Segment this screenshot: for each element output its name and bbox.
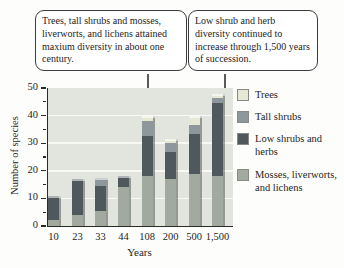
bar-3d-top-face <box>72 179 85 181</box>
x-tick-label-1500: 1,500 <box>206 231 230 242</box>
bar-segment <box>142 121 153 136</box>
succession-diversity-figure: Trees, tall shrubs and mosses, liverwort… <box>0 0 344 268</box>
bar-segment <box>48 196 59 221</box>
legend-label: Tall shrubs <box>255 110 301 123</box>
plot-area <box>47 88 233 227</box>
bar-segment <box>118 187 129 226</box>
bar-3d-side-face <box>153 176 155 226</box>
y-tick-label-50: 50 <box>20 81 38 92</box>
bar-3d-side-face <box>83 215 85 226</box>
legend-swatch-icon <box>237 169 249 181</box>
x-tick-label-23: 23 <box>72 231 83 242</box>
y-minor-tick-25 <box>43 156 46 157</box>
bar-3d-side-face <box>200 125 202 133</box>
bar-3d-side-face <box>176 152 178 180</box>
x-axis-title: Years <box>47 246 232 258</box>
y-tick-label-20: 20 <box>20 164 38 175</box>
y-tick-label-10: 10 <box>20 191 38 202</box>
y-major-tick-30 <box>41 143 46 144</box>
y-major-tick-10 <box>41 198 46 199</box>
x-tick-label-500: 500 <box>186 231 202 242</box>
legend-item: Tall shrubs <box>237 110 343 123</box>
bar-segment <box>189 116 200 126</box>
x-tick-label-200: 200 <box>163 231 179 242</box>
y-minor-tick-35 <box>43 129 46 130</box>
y-minor-tick-45 <box>43 101 46 102</box>
bar-3d-side-face <box>153 136 155 176</box>
y-tick-label-0: 0 <box>20 219 38 230</box>
bar-segment <box>95 178 106 186</box>
bar-10 <box>48 196 61 226</box>
bar-segment <box>72 179 83 215</box>
bar-3d-side-face <box>59 196 61 221</box>
legend-swatch-icon <box>237 111 249 123</box>
y-major-tick-20 <box>41 170 46 171</box>
bar-33 <box>95 178 108 226</box>
x-tick-label-108: 108 <box>139 231 155 242</box>
legend-label: Low shrubs and herbs <box>255 132 343 158</box>
bar-segment <box>165 179 176 226</box>
legend-label: Trees <box>255 88 278 101</box>
x-tick-label-33: 33 <box>95 231 106 242</box>
bar-3d-side-face <box>153 121 155 136</box>
legend-swatch-icon <box>237 133 249 145</box>
bar-segment <box>212 103 223 176</box>
bar-segment <box>72 215 83 226</box>
gridline-40 <box>48 115 233 117</box>
bar-segment <box>118 176 129 187</box>
bar-3d-top-face <box>165 139 178 141</box>
gridline-30 <box>48 142 233 144</box>
legend: TreesTall shrubsLow shrubs and herbsMoss… <box>237 88 343 194</box>
bar-1500 <box>212 94 225 226</box>
y-tick-label-40: 40 <box>20 109 38 120</box>
legend-swatch-icon <box>237 89 249 101</box>
bar-segment <box>95 211 106 226</box>
y-major-tick-0 <box>41 225 46 226</box>
bar-3d-side-face <box>223 103 225 176</box>
callout-right: Low shrub and herb diversity continued t… <box>188 10 318 71</box>
bar-3d-top-face <box>212 94 225 96</box>
legend-item: Low shrubs and herbs <box>237 132 343 158</box>
y-major-tick-40 <box>41 115 46 116</box>
bar-3d-side-face <box>176 143 178 151</box>
bar-segment <box>142 176 153 226</box>
bar-3d-side-face <box>59 220 61 226</box>
bar-segment <box>189 134 200 174</box>
bar-3d-side-face <box>200 174 202 226</box>
gridline-20 <box>48 170 233 172</box>
bar-segment <box>95 186 106 211</box>
legend-label: Mosses, liverworts, and lichens <box>255 168 343 194</box>
bar-500 <box>189 116 202 226</box>
callout-right-text: Low shrub and herb diversity continued t… <box>195 15 310 64</box>
legend-item: Mosses, liverworts, and lichens <box>237 168 343 194</box>
bar-3d-side-face <box>200 134 202 174</box>
callout-left-text: Trees, tall shrubs and mosses, liverwort… <box>42 15 167 64</box>
bar-segment <box>189 174 200 226</box>
y-minor-tick-5 <box>43 212 46 213</box>
bar-3d-top-face <box>95 178 108 180</box>
bar-108 <box>142 116 155 226</box>
bar-3d-side-face <box>106 186 108 211</box>
bar-3d-side-face <box>129 187 131 226</box>
bar-segment <box>142 136 153 176</box>
bar-3d-top-face <box>118 176 131 178</box>
bar-23 <box>72 179 85 226</box>
bar-200 <box>165 139 178 226</box>
bar-3d-side-face <box>106 211 108 226</box>
y-tick-label-30: 30 <box>20 136 38 147</box>
x-tick-label-10: 10 <box>48 231 59 242</box>
bar-3d-top-face <box>48 196 61 198</box>
y-major-tick-50 <box>41 87 46 88</box>
bar-segment <box>48 220 59 226</box>
bar-3d-side-face <box>223 176 225 226</box>
y-minor-tick-15 <box>43 184 46 185</box>
callout-left: Trees, tall shrubs and mosses, liverwort… <box>35 10 187 71</box>
bar-segment <box>165 152 176 180</box>
bar-3d-side-face <box>83 179 85 215</box>
bar-segment <box>165 143 176 151</box>
y-axis-title: Number of species <box>9 96 20 216</box>
bar-segment <box>189 125 200 133</box>
legend-item: Trees <box>237 88 343 101</box>
bar-3d-top-face <box>142 116 155 118</box>
bar-44 <box>118 176 131 226</box>
